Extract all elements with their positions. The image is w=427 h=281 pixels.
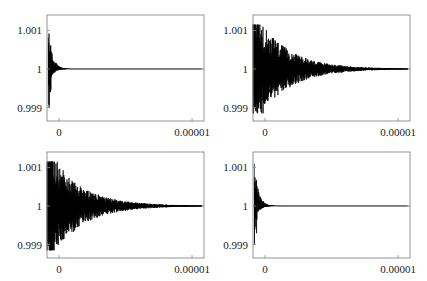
chart-panel-tr: 1.00110.99900.00001 (206, 0, 419, 140)
plot-frame (47, 15, 204, 121)
y-tick-label: 0.999 (17, 102, 42, 114)
x-tick-label: 0 (262, 263, 268, 275)
x-tick-label: 0 (56, 263, 62, 275)
chart-panel-br: 1.00110.99900.00001 (206, 137, 419, 277)
signal-line (48, 34, 201, 108)
x-tick-label: 0.00001 (174, 263, 210, 275)
y-tick-label: 0.999 (223, 102, 248, 114)
y-tick-label: 1 (37, 200, 43, 212)
chart-panel-bl: 1.00110.99900.00001 (0, 137, 213, 277)
y-tick-label: 0.999 (17, 239, 42, 251)
y-tick-label: 1 (243, 63, 249, 75)
y-tick-label: 1.001 (223, 24, 248, 36)
signal-line (253, 25, 408, 114)
chart-panel-tl: 1.00110.99900.00001 (0, 0, 213, 140)
y-tick-label: 1 (243, 200, 249, 212)
x-tick-label: 0.00001 (380, 263, 416, 275)
y-tick-label: 0.999 (223, 239, 248, 251)
y-tick-label: 1.001 (17, 24, 42, 36)
signal-line (254, 164, 407, 244)
y-tick-label: 1.001 (223, 161, 248, 173)
y-tick-label: 1.001 (17, 161, 42, 173)
plot-frame (253, 152, 410, 258)
y-tick-label: 1 (37, 63, 43, 75)
signal-line (47, 162, 202, 251)
